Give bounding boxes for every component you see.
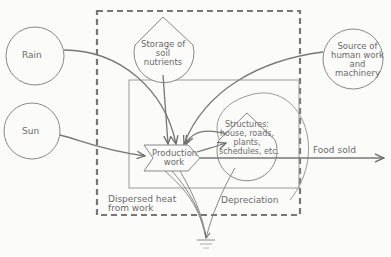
sun-label: Sun (22, 127, 39, 136)
food-sold-label: Food sold (313, 146, 356, 155)
structures-label-line: schedules, etc. (219, 147, 275, 156)
sun-flow (60, 135, 145, 156)
production-work-label-line: work (152, 158, 196, 167)
heat-flow-3 (180, 171, 206, 238)
human-work-label-line: machinery (331, 69, 384, 78)
system-boundary (97, 11, 300, 215)
heat-flow-2 (172, 171, 206, 238)
energy-flow-diagram (0, 0, 391, 257)
soil-storage-label: Storage of soil nutrients (141, 40, 185, 67)
soil-storage-label-line: nutrients (141, 58, 185, 67)
structures-label-line: plants, (219, 138, 275, 147)
dispersed-heat-label: Dispersed heat from work (108, 195, 176, 213)
production-work-label: Production work (152, 149, 196, 167)
structures-label-line: Structures: (219, 120, 275, 129)
dispersed-heat-label-line: from work (108, 204, 176, 213)
structures-label: Structures: house, roads, plants, schedu… (219, 120, 275, 156)
rain-label: Rain (22, 51, 42, 60)
depreciation-label: Depreciation (221, 196, 278, 205)
structures-label-line: house, roads, (219, 129, 275, 138)
human-work-label: Source of human work and machinery (331, 42, 384, 78)
